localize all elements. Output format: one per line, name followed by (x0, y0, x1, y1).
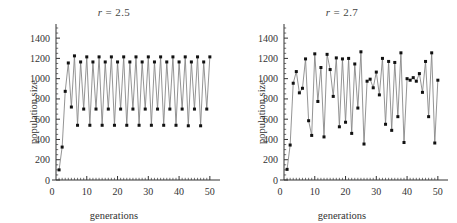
y-axis-tick-label: 400 (263, 134, 278, 145)
data-point-marker (369, 78, 372, 81)
data-point-marker (64, 90, 67, 93)
data-point-marker (313, 52, 316, 55)
data-point-marker (181, 108, 184, 111)
data-point-marker (418, 72, 421, 75)
y-axis-tick-label: 600 (35, 114, 50, 125)
y-axis-tick-label: 200 (263, 154, 278, 165)
x-axis-tick-label: 30 (371, 186, 381, 197)
data-point-marker (95, 108, 98, 111)
data-point-marker (436, 79, 439, 82)
data-point-marker (147, 55, 150, 58)
data-point-marker (289, 144, 292, 147)
data-point-marker (199, 124, 202, 127)
data-point-marker (82, 108, 85, 111)
data-point-marker (125, 124, 128, 127)
data-point-marker (301, 87, 304, 90)
y-axis-tick-label: 1000 (258, 73, 278, 84)
data-point-marker (323, 135, 326, 138)
x-axis-tick-label: 0 (50, 186, 55, 197)
y-axis-tick-label: 200 (35, 154, 50, 165)
plot-area-right: 020040060080010001200140001020304050 (228, 0, 456, 223)
data-point-marker (101, 124, 104, 127)
data-point-marker (319, 66, 322, 69)
data-point-marker (381, 57, 384, 60)
data-point-marker (372, 86, 375, 89)
data-point-marker (58, 168, 61, 171)
data-point-marker (187, 124, 190, 127)
data-point-marker (91, 60, 94, 63)
data-point-marker (156, 108, 159, 111)
data-point-marker (193, 108, 196, 111)
y-axis-tick-label: 1200 (258, 53, 278, 64)
data-point-marker (61, 146, 64, 149)
x-axis-tick-label: 40 (174, 186, 184, 197)
data-point-marker (113, 124, 116, 127)
figure-population-dynamics: r = 2.5 population size generations 0200… (0, 0, 457, 223)
x-axis-tick-label: 0 (278, 186, 283, 197)
data-point-marker (332, 95, 335, 98)
data-point-marker (329, 68, 332, 71)
data-point-marker (378, 93, 381, 96)
data-point-marker (307, 119, 310, 122)
data-point-marker (406, 77, 409, 80)
data-point-marker (131, 108, 134, 111)
data-point-marker (363, 143, 366, 146)
data-point-marker (79, 60, 82, 63)
y-axis-tick-label: 800 (35, 93, 50, 104)
data-point-marker (76, 124, 79, 127)
data-point-marker (421, 91, 424, 94)
data-point-marker (403, 141, 406, 144)
data-series-line (59, 56, 210, 170)
y-axis-tick-label: 0 (45, 175, 50, 186)
data-point-marker (141, 60, 144, 63)
data-point-marker (295, 70, 298, 73)
x-axis-tick-label: 10 (82, 186, 92, 197)
data-point-marker (168, 108, 171, 111)
data-series-line (287, 52, 438, 170)
data-point-marker (196, 55, 199, 58)
y-axis-tick-label: 800 (263, 93, 278, 104)
y-axis-tick-label: 400 (35, 134, 50, 145)
x-axis-tick-label: 40 (402, 186, 412, 197)
data-point-marker (208, 55, 211, 58)
data-point-marker (338, 125, 341, 128)
data-point-marker (150, 124, 153, 127)
data-point-marker (184, 55, 187, 58)
y-axis-tick-label: 1000 (30, 73, 50, 84)
data-point-marker (350, 132, 353, 135)
data-point-marker (205, 108, 208, 111)
data-point-marker (116, 60, 119, 63)
data-point-marker (73, 54, 76, 57)
data-point-marker (153, 60, 156, 63)
data-point-marker (138, 124, 141, 127)
data-point-marker (162, 124, 165, 127)
data-point-marker (128, 60, 131, 63)
data-point-marker (298, 91, 301, 94)
data-point-marker (335, 56, 338, 59)
data-point-marker (430, 51, 433, 54)
data-point-marker (67, 61, 70, 64)
data-point-marker (190, 60, 193, 63)
data-point-marker (399, 51, 402, 54)
data-point-marker (70, 106, 73, 109)
data-point-marker (427, 115, 430, 118)
y-axis-tick-label: 600 (263, 114, 278, 125)
data-point-marker (159, 55, 162, 58)
x-axis-tick-label: 20 (113, 186, 123, 197)
data-point-marker (409, 79, 412, 82)
data-point-marker (310, 134, 313, 137)
data-point-marker (98, 55, 101, 58)
data-point-marker (122, 55, 125, 58)
data-point-marker (396, 115, 399, 118)
data-point-marker (390, 129, 393, 132)
data-point-marker (135, 55, 138, 58)
data-point-marker (292, 82, 295, 85)
data-point-marker (433, 142, 436, 145)
data-point-marker (326, 53, 329, 56)
chart-panel-left: r = 2.5 population size generations 0200… (0, 0, 228, 223)
data-point-marker (104, 60, 107, 63)
data-point-marker (171, 55, 174, 58)
data-point-marker (387, 60, 390, 63)
data-point-marker (384, 123, 387, 126)
data-point-marker (107, 108, 110, 111)
